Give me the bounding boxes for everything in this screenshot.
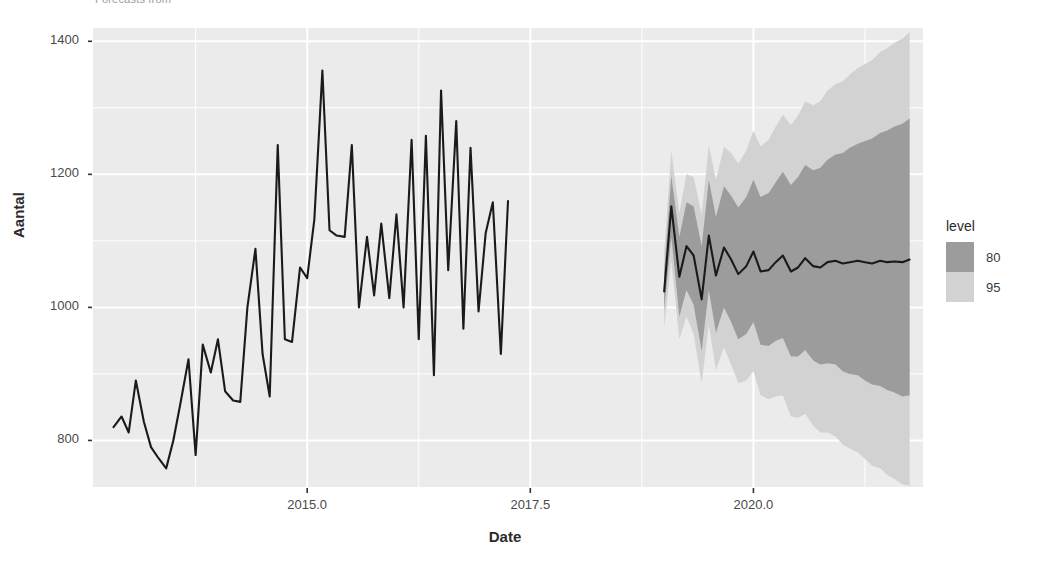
x-tick-label: 2020.0: [713, 497, 793, 512]
forecast-chart: Forecasts from Aantal Date 8001000120014…: [0, 0, 1048, 571]
x-tick-label: 2015.0: [267, 497, 347, 512]
y-axis-title: Aantal: [10, 192, 27, 238]
x-tick-label: 2017.5: [490, 497, 570, 512]
y-tick-label: 1000: [19, 298, 79, 313]
y-tick-label: 800: [19, 431, 79, 446]
legend-swatch-80: [946, 242, 974, 272]
legend-item-80[interactable]: 80: [946, 242, 1042, 272]
x-axis-title: Date: [0, 528, 1010, 545]
legend-item-95[interactable]: 95: [946, 272, 1042, 302]
legend-label-80: 80: [986, 250, 1000, 265]
plot-canvas: [0, 0, 1048, 571]
legend-swatch-95: [946, 272, 974, 302]
clipped-chart-title: Forecasts from: [95, 0, 171, 5]
legend-label-95: 95: [986, 280, 1000, 295]
y-tick-label: 1200: [19, 165, 79, 180]
legend-title: level: [946, 218, 1042, 234]
y-tick-label: 1400: [19, 32, 79, 47]
legend: level 80 95: [946, 218, 1042, 302]
